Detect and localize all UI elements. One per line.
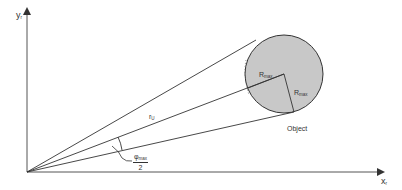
x-axis-label: xr [381,177,387,187]
angle-numerator: φmax [133,153,148,163]
radius-label-upper: Rmax [259,71,273,80]
angle-denominator: 2 [139,163,143,171]
y-axis-label: yr [16,11,22,21]
diagram-canvas [0,0,402,190]
object-label: Object [287,125,307,132]
angle-arc [118,137,122,150]
radius-label-lower: Rmax [294,89,308,98]
angle-label: φmax 2 [133,153,148,171]
distance-label: rU [149,113,155,122]
